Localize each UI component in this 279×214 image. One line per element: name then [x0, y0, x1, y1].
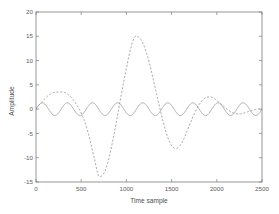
x-tick-label: 2000: [210, 185, 224, 192]
y-axis-ticks: [36, 12, 262, 182]
x-tick-label: 1500: [165, 185, 179, 192]
figure-canvas: 05001000150020002500 -15-10-505101520 Ti…: [0, 0, 279, 214]
x-axis-title: Time sample: [130, 197, 168, 205]
y-tick-label: -15: [24, 178, 34, 185]
x-tick-label: 500: [76, 185, 87, 192]
series-dashed-modulated-signal: [36, 36, 262, 176]
x-tick-label: 0: [34, 185, 38, 192]
y-tick-label: 20: [26, 8, 33, 15]
plot-area: 05001000150020002500 -15-10-505101520 Ti…: [0, 0, 279, 214]
curve-group: [36, 36, 262, 176]
x-tick-label: 1000: [120, 185, 134, 192]
x-tick-label: 2500: [255, 185, 269, 192]
x-axis-tick-labels: 05001000150020002500: [34, 185, 269, 192]
y-tick-label: -5: [27, 130, 33, 137]
y-axis-title: Amplitude: [8, 86, 16, 116]
y-tick-label: -10: [24, 154, 34, 161]
y-tick-label: 15: [26, 32, 33, 39]
y-tick-label: 0: [30, 105, 34, 112]
axes-frame: [36, 12, 262, 182]
y-tick-label: 10: [26, 57, 33, 64]
y-axis-tick-labels: -15-10-505101520: [24, 8, 34, 185]
x-axis-ticks: [36, 12, 262, 182]
series-solid-carrier-signal: [36, 103, 262, 116]
y-tick-label: 5: [30, 81, 34, 88]
